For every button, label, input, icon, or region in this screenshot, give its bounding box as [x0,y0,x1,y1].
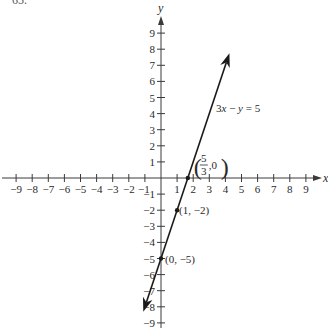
y-tick-label: 7 [150,59,156,71]
point-label-x-intercept: (53,0) [194,152,229,180]
x-tick-label: 6 [255,183,261,195]
x-tick-label: −9 [10,183,22,195]
y-tick-label: −4 [143,236,155,248]
y-tick-label: 5 [150,92,156,104]
x-tick-label: 3 [207,183,213,195]
x-tick-label: 7 [271,183,277,195]
data-point [159,256,163,260]
y-tick-label: −2 [143,204,155,216]
x-tick-label: 2 [190,183,196,195]
x-tick-label: −6 [59,183,71,195]
y-tick-label: −9 [143,317,155,329]
x-tick-label: 4 [223,183,229,195]
y-tick-label: 2 [150,140,156,152]
y-axis-arrow [158,16,164,25]
x-tick-label: −4 [91,183,103,195]
y-tick-label: 6 [150,75,156,87]
point-label: (0, −5) [165,253,195,266]
series-line [146,63,226,303]
y-tick-label: 8 [150,43,156,55]
x-axis-label: x [322,171,328,185]
x-tick-label: 8 [287,183,293,195]
x-tick-label: −2 [123,183,135,195]
y-axis-label: y [157,1,164,15]
fraction-denominator: 3 [201,165,207,177]
x-tick-label: 9 [303,183,309,195]
x-tick-label: 1 [174,183,180,195]
x-tick-label: −3 [107,183,119,195]
x-tick-label: −7 [42,183,54,195]
point-label: (1, −2) [179,204,209,217]
y-tick-label: −5 [143,253,155,265]
y-tick-label: 3 [150,124,156,136]
equation-label: 3x − y = 5 [216,102,261,114]
x-tick-label: −5 [75,183,87,195]
coordinate-plane: xy −9−8−7−6−5−4−3−2−1123456789−9−8−7−6−5… [0,0,328,330]
series [143,53,230,311]
y-tick-label: −3 [143,220,155,232]
x-axis-arrow [313,175,322,181]
axes: xy [2,1,328,328]
y-tick-label: 9 [150,27,156,39]
x-tick-label: −8 [26,183,38,195]
point-label-comma: ,0 [209,159,218,171]
data-point [186,176,190,180]
y-tick-label: −1 [143,188,155,200]
paren-right: ) [221,154,229,180]
y-tick-label: 1 [150,156,156,168]
y-tick-label: 4 [150,108,156,120]
x-tick-label: 5 [239,183,245,195]
fraction-numerator: 5 [201,152,207,164]
